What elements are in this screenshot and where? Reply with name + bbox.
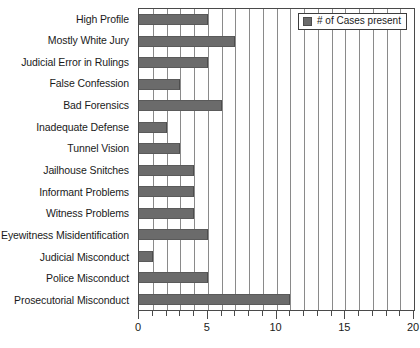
bar <box>139 294 290 305</box>
x-tick-minor <box>386 311 387 316</box>
bar-row <box>139 117 414 139</box>
x-tick-minor <box>248 311 249 316</box>
x-tick-minor <box>399 311 400 316</box>
x-tick-minor <box>331 311 332 316</box>
y-axis-label: Jailhouse Snitches <box>0 159 133 181</box>
bars-container <box>139 9 414 310</box>
bar-row <box>139 224 414 246</box>
x-axis-ticks <box>138 311 415 319</box>
x-tick-minor <box>358 311 359 316</box>
y-axis-label: High Profile <box>0 8 133 30</box>
legend-label: # of Cases present <box>317 16 401 26</box>
bar-row <box>139 203 414 225</box>
bar-row <box>139 246 414 268</box>
bar-row <box>139 181 414 203</box>
y-axis-label: Witness Problems <box>0 203 133 225</box>
y-axis-label: Inadequate Defense <box>0 116 133 138</box>
x-tick-minor <box>317 311 318 316</box>
chart-legend: # of Cases present <box>298 13 407 30</box>
bar <box>139 229 208 240</box>
y-axis-label: Police Misconduct <box>0 268 133 290</box>
x-tick-minor <box>372 311 373 316</box>
bar <box>139 272 208 283</box>
bar-row <box>139 95 414 117</box>
x-axis: 05101520 <box>138 311 415 348</box>
x-tick-minor <box>179 311 180 316</box>
x-tick-label: 0 <box>135 322 141 333</box>
x-tick-major <box>138 311 139 319</box>
y-axis-label: Informant Problems <box>0 181 133 203</box>
bar <box>139 208 194 219</box>
x-tick-minor <box>303 311 304 316</box>
bar <box>139 100 222 111</box>
y-axis-label: Bad Forensics <box>0 95 133 117</box>
x-tick-label: 10 <box>269 322 281 333</box>
x-tick-minor <box>221 311 222 316</box>
x-tick-minor <box>166 311 167 316</box>
bar <box>139 122 167 133</box>
y-axis-label: False Confession <box>0 73 133 95</box>
bar-row <box>139 160 414 182</box>
x-tick-major <box>276 311 277 319</box>
bar <box>139 36 235 47</box>
bar <box>139 165 194 176</box>
y-axis-label: Judicial Misconduct <box>0 246 133 268</box>
y-axis-label: Prosecutorial Misconduct <box>0 289 133 311</box>
x-tick-minor <box>234 311 235 316</box>
x-tick-major <box>207 311 208 319</box>
x-tick-minor <box>262 311 263 316</box>
y-axis-label: Eyewitness Misidentification <box>0 224 133 246</box>
bar-row <box>139 74 414 96</box>
x-tick-label: 20 <box>407 322 419 333</box>
bar <box>139 79 180 90</box>
horizontal-bar-chart: High ProfileMostly White JuryJudicial Er… <box>0 0 420 348</box>
bar <box>139 57 208 68</box>
bar <box>139 143 180 154</box>
bar <box>139 186 194 197</box>
x-tick-minor <box>289 311 290 316</box>
x-tick-major <box>413 311 414 319</box>
bar-row <box>139 267 414 289</box>
bar-row <box>139 52 414 74</box>
x-tick-major <box>344 311 345 319</box>
bar-row <box>139 138 414 160</box>
bar <box>139 251 153 262</box>
bar-row <box>139 289 414 311</box>
plot-area <box>138 8 415 311</box>
x-tick-label: 15 <box>338 322 350 333</box>
bar-row <box>139 31 414 53</box>
x-tick-minor <box>152 311 153 316</box>
y-axis-label: Tunnel Vision <box>0 138 133 160</box>
y-axis-label: Mostly White Jury <box>0 30 133 52</box>
x-tick-label: 5 <box>204 322 210 333</box>
legend-swatch-icon <box>303 17 312 26</box>
bar <box>139 14 208 25</box>
x-tick-minor <box>193 311 194 316</box>
y-axis-category-labels: High ProfileMostly White JuryJudicial Er… <box>0 8 133 311</box>
y-axis-label: Judicial Error in Rulings <box>0 51 133 73</box>
